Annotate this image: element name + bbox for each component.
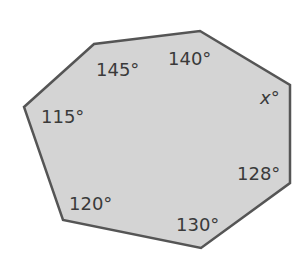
angle-label-120: 120° (69, 193, 112, 214)
heptagon-figure: 115° 145° 140° x° 128° 130° 120° (0, 0, 307, 263)
polygon-diagram: 115° 145° 140° x° 128° 130° 120° (0, 0, 307, 263)
angle-label-145: 145° (96, 59, 139, 80)
angle-label-115: 115° (41, 106, 84, 127)
angle-label-128: 128° (237, 163, 280, 184)
angle-label-140: 140° (168, 48, 211, 69)
angle-label-130: 130° (176, 214, 219, 235)
angle-label-x: x° (259, 87, 280, 108)
heptagon-shape (24, 31, 290, 248)
